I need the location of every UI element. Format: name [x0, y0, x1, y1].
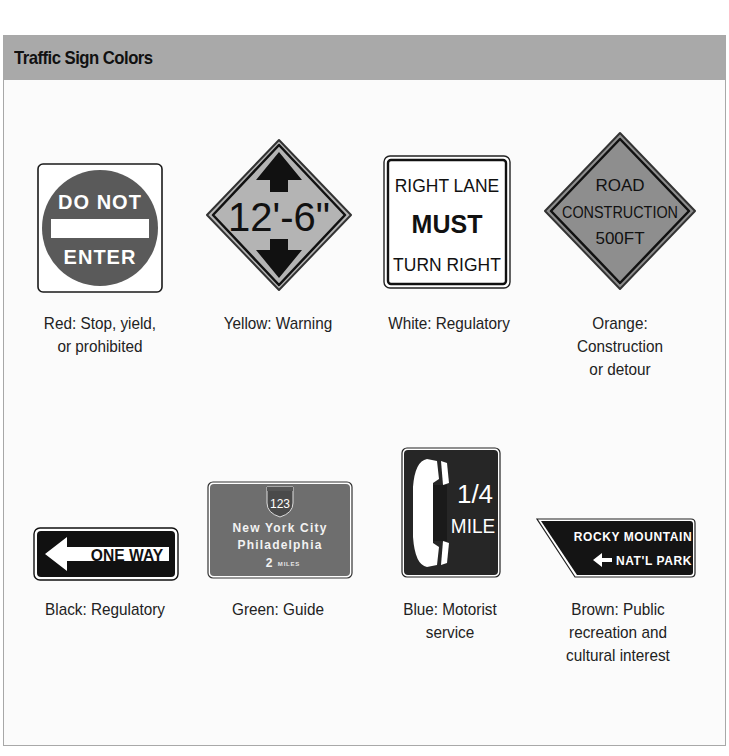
sign-text: 500FT	[595, 229, 644, 248]
sign-telephone: 1/4 MILE	[401, 447, 501, 578]
sign-text: 12'-6"	[228, 195, 330, 239]
caption-line: Black: Regulatory	[24, 598, 186, 621]
sign-text: RIGHT LANE	[395, 174, 500, 196]
sign-text: MILE	[451, 515, 495, 538]
sign-text: TURN RIGHT	[393, 253, 501, 275]
sign-do-not-enter: DO NOT ENTER	[37, 163, 163, 293]
caption-line: recreation and	[537, 621, 699, 644]
sign-text: 1/4	[457, 479, 493, 509]
sign-text: ROCKY MOUNTAIN	[574, 530, 693, 544]
sign-text: NAT'L PARK	[616, 554, 692, 568]
sign-low-clearance: 12'-6"	[205, 138, 353, 292]
caption-line: service	[369, 621, 531, 644]
caption-white: White: Regulatory	[368, 312, 530, 335]
caption-yellow: Yellow: Warning	[197, 312, 359, 335]
caption-orange: Orange: Construction or detour	[539, 312, 701, 381]
caption-line: Brown: Public	[537, 598, 699, 621]
telephone-icon	[413, 459, 449, 567]
sign-text: CONSTRUCTION	[562, 203, 678, 221]
caption-blue: Blue: Motorist service	[369, 598, 531, 644]
caption-line: Yellow: Warning	[197, 312, 359, 335]
caption-line: or prohibited	[19, 335, 181, 358]
interstate-shield-icon: 123	[267, 487, 293, 517]
distance-number: 2	[266, 556, 273, 570]
caption-line: cultural interest	[537, 644, 699, 667]
sign-one-way: ONE WAY	[33, 527, 179, 581]
sign-guide-new-york-city: 123 New York City Philadelphia 2 MILES	[207, 481, 353, 579]
sign-text: MUST	[412, 210, 483, 238]
figure-header: Traffic Sign Colors	[4, 36, 725, 80]
caption-green: Green: Guide	[197, 598, 359, 621]
sign-text: ENTER	[64, 246, 137, 268]
sign-text: New York City	[232, 521, 327, 535]
caption-line: Blue: Motorist	[369, 598, 531, 621]
sign-text: ROAD	[595, 176, 644, 195]
caption-line: Orange:	[539, 312, 701, 335]
sign-text: Philadelphia	[237, 538, 322, 552]
sign-right-lane-must-turn-right: RIGHT LANE MUST TURN RIGHT	[383, 155, 511, 289]
sign-road-construction: ROAD CONSTRUCTION 500FT	[543, 131, 697, 291]
caption-red: Red: Stop, yield, or prohibited	[19, 312, 181, 358]
distance-unit: MILES	[278, 561, 300, 567]
figure-title: Traffic Sign Colors	[14, 47, 153, 69]
sign-rocky-mountain-park: ROCKY MOUNTAIN NAT'L PARK	[535, 517, 697, 579]
caption-line: Construction	[539, 335, 701, 358]
caption-line: or detour	[539, 358, 701, 381]
sign-text: DO NOT	[58, 191, 142, 213]
caption-line: White: Regulatory	[368, 312, 530, 335]
caption-brown: Brown: Public recreation and cultural in…	[537, 598, 699, 667]
caption-black: Black: Regulatory	[24, 598, 186, 621]
caption-line: Red: Stop, yield,	[19, 312, 181, 335]
sign-text: ONE WAY	[91, 545, 164, 564]
shield-number: 123	[270, 497, 290, 511]
caption-line: Green: Guide	[197, 598, 359, 621]
